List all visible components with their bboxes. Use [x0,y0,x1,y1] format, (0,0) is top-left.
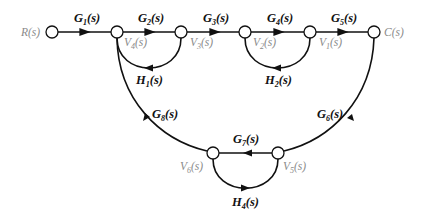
gain-label-g2: G2(s) [138,11,164,27]
gain-label-g1: G1(s) [74,11,100,27]
node-v6 [207,147,219,159]
node-label-v5: V5(s) [283,160,306,175]
node-label-v1: V1(s) [319,36,342,51]
gain-label-g6: G6(s) [317,107,343,123]
node-label-v6: V6(s) [180,160,203,175]
gain-label-g7: G7(s) [233,132,259,148]
node-label-v4: V4(s) [124,36,147,51]
arrow-g7 [243,150,252,157]
gain-label-h1: H1(s) [135,73,163,89]
node-r [46,26,58,38]
node-label-c: C(s) [384,26,404,39]
node-label-r: R(s) [20,26,40,39]
node-label-v2: V2(s) [253,36,276,51]
branch-g6 [284,38,374,151]
gain-label-h2: H2(s) [264,73,292,89]
arrow-h1 [144,65,153,72]
arrow-h4 [241,185,250,192]
diagram-svg: G1(s) G2(s) G3(s) G4(s) G5(s) H1(s) H2(s… [0,0,422,217]
branch-g8 [117,38,207,151]
gain-label-g8: G8(s) [152,107,178,123]
node-v3 [175,26,187,38]
signal-flow-graph: G1(s) G2(s) G3(s) G4(s) G5(s) H1(s) H2(s… [0,0,422,217]
node-c [368,26,380,38]
gain-label-g5: G5(s) [331,11,357,27]
gain-label-h4: H4(s) [231,195,259,211]
node-v5 [272,147,284,159]
arrow-h2 [272,65,281,72]
node-v2 [239,26,251,38]
node-label-v3: V3(s) [190,36,213,51]
arrow-g8 [143,113,150,121]
gain-label-g4: G4(s) [267,11,293,27]
node-v4 [111,26,123,38]
gain-label-g3: G3(s) [203,11,229,27]
arrow-g6 [347,114,354,121]
node-v1 [304,26,316,38]
branch-h4 [213,159,278,188]
